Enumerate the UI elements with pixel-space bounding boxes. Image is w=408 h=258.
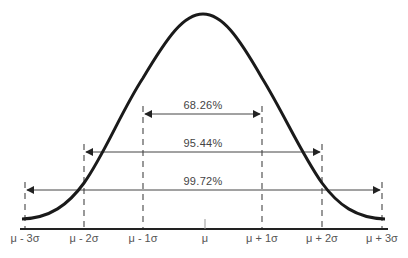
axis-label-minus-1sigma: μ - 1σ xyxy=(128,232,157,244)
interval-label-99: 99.72% xyxy=(183,175,222,187)
axis-label-plus-2sigma: μ + 2σ xyxy=(306,232,338,244)
bell-curve xyxy=(22,14,385,219)
normal-distribution-diagram xyxy=(0,0,408,258)
axis-label-minus-3sigma: μ - 3σ xyxy=(10,232,39,244)
interval-label-95: 95.44% xyxy=(183,137,222,149)
axis-label-minus-2sigma: μ - 2σ xyxy=(69,232,98,244)
axis-label-plus-3sigma: μ + 3σ xyxy=(366,232,398,244)
interval-label-68: 68.26% xyxy=(183,99,222,111)
axis-label-mean: μ xyxy=(202,232,208,244)
axis-label-plus-1sigma: μ + 1σ xyxy=(246,232,278,244)
sigma-guides xyxy=(25,106,382,229)
